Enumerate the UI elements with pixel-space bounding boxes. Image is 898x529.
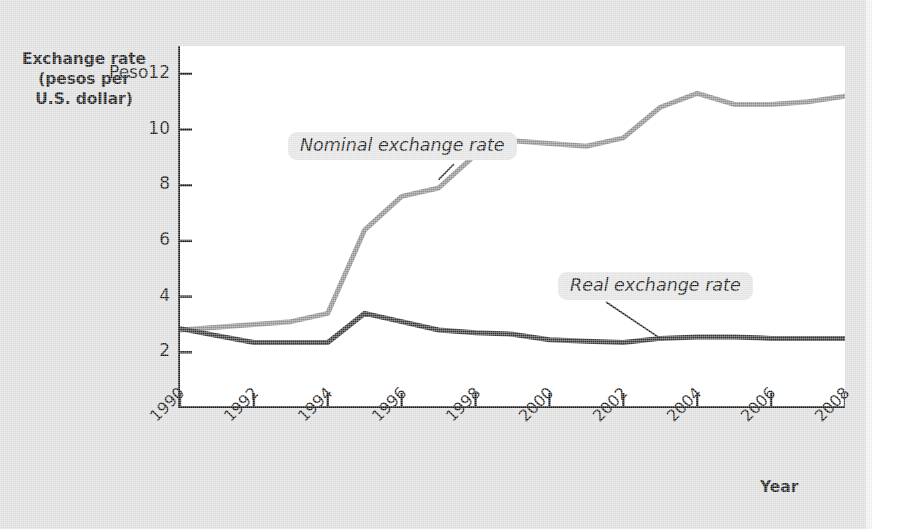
plot-area [178, 46, 845, 408]
y-tick-label-12: Peso12 [50, 62, 170, 82]
series-label-real-exchange-rate: Real exchange rate [558, 272, 753, 300]
y-tick-label-4: 4 [50, 285, 170, 305]
series-line-real-exchange-rate [180, 313, 845, 342]
chart-canvas [178, 46, 845, 408]
page-right-margin [872, 0, 898, 529]
leader-line-real [606, 302, 660, 338]
y-tick-label-8: 8 [50, 173, 170, 193]
y-tick-label-2: 2 [50, 340, 170, 360]
x-axis-title: Year [760, 478, 798, 496]
y-tick-label-10: 10 [50, 118, 170, 138]
exchange-rate-figure: Exchange rate (pesos per U.S. dollar) Pe… [0, 0, 898, 529]
y-axis-ticks [180, 74, 192, 352]
y-axis-tick-labels: Peso12108642 [46, 0, 170, 529]
y-tick-label-6: 6 [50, 229, 170, 249]
series-label-nominal-exchange-rate: Nominal exchange rate [288, 132, 517, 160]
